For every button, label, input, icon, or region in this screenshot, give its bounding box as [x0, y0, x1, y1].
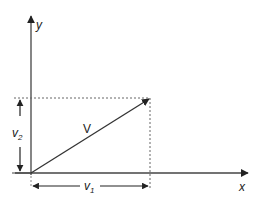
vector-label: V	[83, 122, 91, 136]
x-axis-label: x	[238, 180, 246, 194]
v1-label: v1	[84, 179, 94, 195]
vector-v	[31, 99, 149, 173]
y-axis-label: y	[35, 18, 43, 32]
vector-diagram: y x V v2 v1	[0, 0, 261, 202]
v2-label: v2	[12, 126, 23, 142]
